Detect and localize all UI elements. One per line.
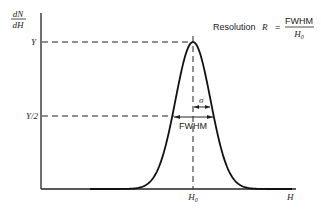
- x-axis-label: H: [286, 192, 294, 202]
- sigma-label: σ: [199, 95, 204, 105]
- fraction-numerator: FWHM: [285, 16, 313, 26]
- gaussian-curve: [90, 42, 292, 189]
- peak-position-label: H0: [187, 192, 198, 203]
- sigma-arrow: [194, 105, 210, 109]
- resolution-diagram: σ FWHM dN dH Y Y/2 H0 H Resolution R = F…: [0, 0, 321, 213]
- y-axis-label-denominator: dH: [13, 20, 25, 30]
- y-axis-label-numerator: dN: [13, 9, 25, 19]
- fwhm-label: FWHM: [179, 121, 207, 131]
- fraction-denominator: H0: [293, 29, 304, 40]
- resolution-symbol: R: [261, 22, 268, 32]
- y-half-label: Y/2: [26, 111, 39, 121]
- resolution-label: Resolution: [213, 22, 256, 32]
- equals-sign: =: [275, 22, 280, 32]
- y-peak-label: Y: [31, 37, 37, 47]
